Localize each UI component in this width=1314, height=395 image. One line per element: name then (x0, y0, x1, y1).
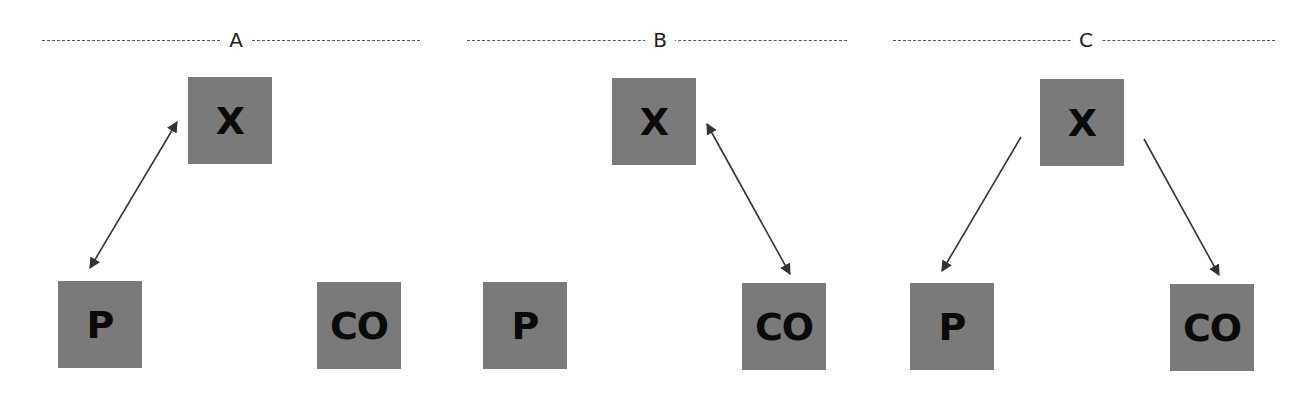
arrow-x-co (1144, 139, 1219, 275)
arrow-x-p (942, 137, 1021, 271)
arrow-x-co (707, 124, 790, 274)
arrow-x-p (90, 122, 177, 268)
arrows-layer (0, 0, 1314, 395)
